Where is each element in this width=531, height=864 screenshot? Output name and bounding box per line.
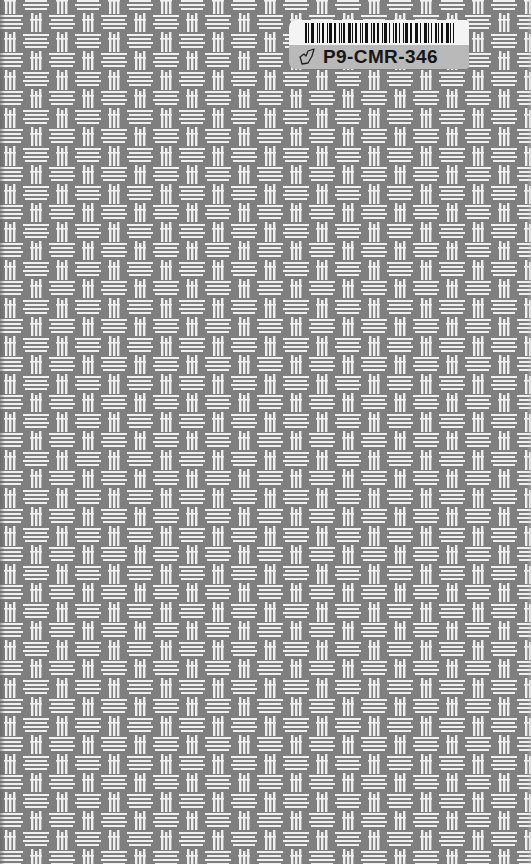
barcode-bar [373, 23, 375, 43]
barcode-bar [308, 23, 309, 43]
barcode-bar [393, 23, 394, 43]
barcode-bar [435, 23, 437, 43]
barcode-bar [395, 23, 397, 43]
barcode [305, 23, 457, 43]
library-barcode-label: P9-CMR-346 [289, 20, 469, 69]
barcode-bar [352, 23, 353, 43]
barcode-bar [389, 23, 390, 43]
weave-pattern-svg [0, 0, 531, 864]
barcode-bar [410, 23, 412, 43]
barcode-bar [438, 23, 439, 43]
barcode-bar [416, 23, 418, 43]
barcode-bar [327, 23, 328, 43]
cover-left-edge-shadow [0, 0, 5, 864]
barcode-bar [362, 23, 363, 43]
barcode-bar [453, 23, 454, 43]
barcode-bar [403, 23, 404, 43]
barcode-bar [341, 23, 342, 43]
book-cover-pattern [0, 0, 531, 864]
barcode-area [289, 20, 469, 45]
barcode-bar [319, 23, 320, 43]
barcode-bar [415, 23, 416, 43]
leaf-outline-icon [297, 48, 319, 66]
barcode-bar [355, 23, 357, 43]
barcode-bar [431, 23, 432, 43]
barcode-bar [441, 23, 443, 43]
barcode-bar [365, 23, 368, 43]
barcode-bar [339, 23, 340, 43]
barcode-bar [371, 23, 372, 43]
barcode-bar [446, 23, 449, 43]
barcode-bar [377, 23, 379, 43]
item-id-text: P9-CMR-346 [323, 46, 438, 68]
barcode-bar [382, 23, 383, 43]
barcode-bar [384, 23, 387, 43]
barcode-bar [428, 23, 429, 43]
barcode-bar [424, 23, 427, 43]
cover-right-edge-highlight [527, 0, 531, 864]
barcode-bar [348, 23, 351, 43]
barcode-bar [317, 23, 318, 43]
barcode-bar [405, 23, 408, 43]
barcode-bar [329, 23, 332, 43]
barcode-bar [343, 23, 345, 43]
barcode-bar [399, 23, 400, 43]
barcode-bar [322, 23, 324, 43]
barcode-bar [305, 23, 307, 43]
barcode-bar [420, 23, 421, 43]
barcode-bar [360, 23, 361, 43]
barcode-bar [334, 23, 336, 43]
label-id-strip: P9-CMR-346 [289, 45, 469, 69]
barcode-bar [311, 23, 314, 43]
barcode-bar [450, 23, 451, 43]
